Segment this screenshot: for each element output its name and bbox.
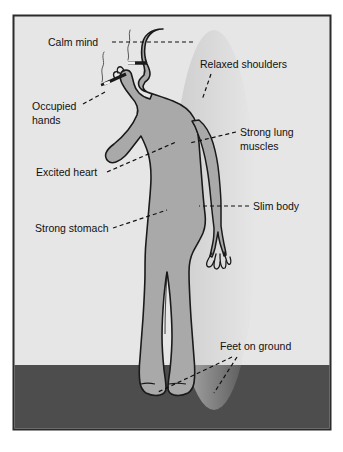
illustration-canvas: Calm mind Relaxed shoulders Occupied han… [0,0,343,452]
label-occupied-hands-line1: Occupied [32,100,77,112]
label-feet-on-ground: Feet on ground [220,340,291,352]
label-occupied-hands-line2: hands [32,114,61,126]
label-strong-stomach: Strong stomach [35,222,109,234]
smoker-diagram-root: Calm mind Relaxed shoulders Occupied han… [0,0,343,452]
label-slim-body: Slim body [253,200,300,212]
label-strong-lung-line1: Strong lung [240,126,294,138]
label-strong-lung-line2: muscles [240,140,279,152]
label-relaxed-shoulders: Relaxed shoulders [200,58,287,70]
label-excited-heart: Excited heart [36,166,97,178]
label-calm-mind: Calm mind [48,36,98,48]
